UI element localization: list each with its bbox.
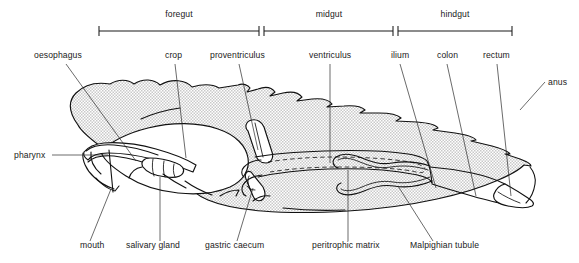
label-ilium: ilium [391, 50, 409, 60]
diagram-canvas: foregut midgut hindgut [0, 0, 579, 263]
label-gastric-caecum: gastric caecum [205, 240, 264, 250]
labels-side: pharynx [14, 150, 46, 160]
label-colon: colon [437, 50, 458, 60]
rectum-bulb [494, 184, 534, 208]
mouth-opening [96, 178, 119, 191]
label-crop: crop [165, 50, 182, 60]
label-anus: anus [548, 77, 567, 87]
region-label-midgut: midgut [316, 9, 343, 19]
region-label-hindgut: hindgut [441, 9, 470, 19]
label-rectum: rectum [483, 50, 510, 60]
ruler-segment-hindgut [398, 26, 512, 36]
insect-gut-diagram: foregut midgut hindgut [0, 0, 579, 263]
ruler-segment-midgut [264, 26, 393, 36]
label-salivary-gland: salivary gland [126, 240, 180, 250]
label-mouth: mouth [80, 240, 105, 250]
label-ventriculus: ventriculus [309, 50, 351, 60]
leader-mouth [90, 189, 111, 241]
region-label-foregut: foregut [165, 9, 193, 19]
labels-bottom: mouth salivary gland gastric caecum peri… [80, 240, 479, 250]
region-ruler: foregut midgut hindgut [99, 9, 512, 36]
ruler-segment-foregut [99, 26, 259, 36]
label-oesophagus: oesophagus [34, 50, 82, 60]
label-Malpighian-tubule: Malpighian tubule [410, 240, 479, 250]
label-proventriculus: proventriculus [210, 50, 265, 60]
label-pharynx: pharynx [14, 150, 46, 160]
label-peritrophic-matrix: peritrophic matrix [312, 240, 380, 250]
leader-anus [520, 82, 545, 110]
